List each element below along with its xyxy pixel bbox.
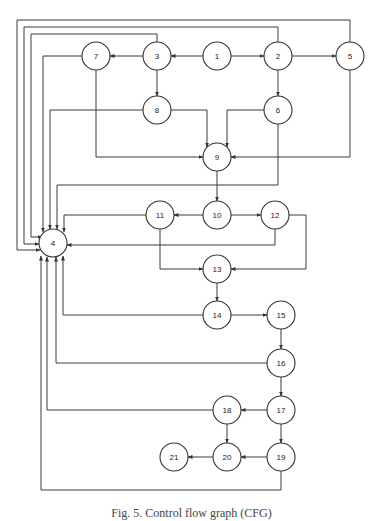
- edge-12-to-4: [67, 229, 275, 245]
- node-label: 15: [277, 311, 286, 320]
- node-1: 1: [203, 42, 231, 70]
- node-label: 4: [51, 239, 56, 248]
- edge-11-to-4: [64, 215, 146, 232]
- node-label: 5: [348, 52, 353, 61]
- node-label: 9: [215, 153, 220, 162]
- node-16: 16: [267, 349, 295, 377]
- node-12: 12: [261, 201, 289, 229]
- node-17: 17: [267, 396, 295, 424]
- node-9: 9: [203, 143, 231, 171]
- node-label: 20: [223, 453, 232, 462]
- edge-7-to-4: [43, 56, 82, 232]
- node-18: 18: [213, 396, 241, 424]
- node-label: 12: [271, 211, 280, 220]
- node-11: 11: [146, 201, 174, 229]
- node-label: 6: [276, 106, 281, 115]
- node-label: 8: [155, 106, 160, 115]
- node-8: 8: [143, 96, 171, 124]
- node-label: 11: [156, 211, 165, 220]
- node-label: 10: [213, 211, 222, 220]
- edge-8-to-9: [171, 110, 207, 147]
- edge-14-to-4: [63, 256, 203, 315]
- node-20: 20: [213, 443, 241, 471]
- node-4: 4: [39, 229, 67, 257]
- node-label: 7: [94, 52, 99, 61]
- node-3: 3: [143, 42, 171, 70]
- figure-caption: Fig. 5. Control flow graph (CFG): [0, 506, 383, 521]
- node-label: 2: [276, 52, 281, 61]
- node-19: 19: [267, 443, 295, 471]
- node-6: 6: [264, 96, 292, 124]
- edge-16-to-4: [56, 257, 267, 363]
- node-label: 1: [215, 52, 220, 61]
- node-layer: 123456789101112131415161718192021: [39, 42, 364, 471]
- edge-6-to-9: [227, 110, 264, 147]
- edge-18-to-4: [47, 257, 213, 410]
- node-13: 13: [203, 255, 231, 283]
- edge-11-to-13: [160, 229, 203, 269]
- node-label: 13: [213, 265, 222, 274]
- node-5: 5: [336, 42, 364, 70]
- node-14: 14: [203, 301, 231, 329]
- node-10: 10: [203, 201, 231, 229]
- node-label: 14: [213, 311, 222, 320]
- node-7: 7: [82, 42, 110, 70]
- node-label: 17: [277, 406, 286, 415]
- node-label: 3: [155, 52, 160, 61]
- node-15: 15: [267, 301, 295, 329]
- node-label: 18: [223, 406, 232, 415]
- node-label: 19: [277, 453, 286, 462]
- edge-layer: [17, 20, 350, 490]
- node-label: 16: [277, 359, 286, 368]
- node-label: 21: [170, 453, 179, 462]
- node-2: 2: [264, 42, 292, 70]
- node-21: 21: [160, 443, 188, 471]
